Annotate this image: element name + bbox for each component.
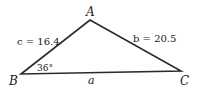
- vertex-label-b: B: [8, 74, 18, 88]
- vertex-label-a: A: [85, 5, 95, 19]
- angle-label-b: 36°: [37, 63, 53, 73]
- side-label-a: a: [88, 74, 95, 87]
- triangle-figure: A B C c = 16.4 b = 20.5 a 36°: [0, 0, 197, 90]
- vertex-label-c: C: [180, 74, 189, 88]
- side-label-b: b = 20.5: [133, 33, 176, 44]
- triangle-diagram: A B C c = 16.4 b = 20.5 a 36°: [0, 0, 197, 90]
- side-label-c: c = 16.4: [17, 36, 60, 47]
